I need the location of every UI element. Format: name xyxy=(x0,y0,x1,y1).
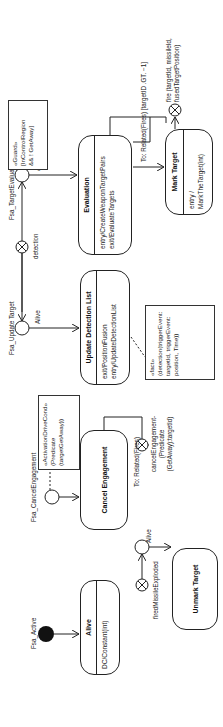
fsa-update-label: Fsa_Update Target xyxy=(8,302,16,355)
alive-label-1: Alive xyxy=(145,529,153,543)
alive-label-2: Alive xyxy=(34,310,42,324)
activation-note: «ActivationDriveCond»(Predicate(targetGe… xyxy=(38,395,80,470)
related-fires-label-2: To: Related(Fires) [targetID .GT. −1] xyxy=(140,62,148,162)
state-mark-target[interactable]: Mark Target entry / MarkTheTarget(int) xyxy=(165,129,213,215)
state-update-detection-list[interactable]: Update Detection List exit/PositionFusio… xyxy=(80,270,130,385)
guard-note: «Guard»[InControlRegion&& ! GetAway] xyxy=(8,100,48,170)
state-unmark-target[interactable]: Unmark Target xyxy=(172,548,218,630)
detection-label: detection xyxy=(32,233,40,259)
fact-note: «fact»(detection(triggerEvent:targetId, … xyxy=(145,305,215,380)
state-alive[interactable]: Alive DC/Constant(int) xyxy=(80,580,120,675)
initial-state-icon xyxy=(38,626,54,642)
state-evaluation[interactable]: Evaluation entry/CreateWeaponTargetPairs… xyxy=(78,135,132,255)
state-cancel-engagement[interactable]: Cancel Engagement xyxy=(80,430,128,530)
fsa-cancel-label: Fsa_CancelEngagement xyxy=(30,453,38,522)
related-fires-label-1: To: Related(Fires) xyxy=(133,437,141,487)
state-diagram: Fsa_Active Alive DC/Constant(int) firedM… xyxy=(0,0,223,727)
x-circle-icon xyxy=(136,579,148,591)
fired-missile-label: firedMissileExploded xyxy=(152,561,160,619)
fire-event-label: fire (targetId, missileId,fusedTargetPos… xyxy=(165,38,181,102)
fsa-active-label: Fsa_Active xyxy=(30,618,38,649)
cancel-event-label: cancelEngagement-(Predicate(GetAway):tar… xyxy=(150,416,174,472)
